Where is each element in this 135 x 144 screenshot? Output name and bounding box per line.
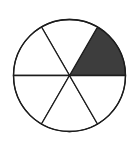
fraction-circle-diagram <box>0 0 135 144</box>
circle-six-sectors-svg <box>0 0 135 144</box>
